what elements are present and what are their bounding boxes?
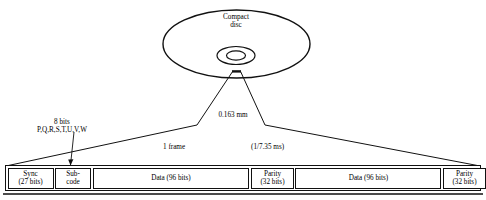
thickness-callout-label: 0.163 mm (203, 111, 263, 119)
frame-cell-parity1-line2: (32 bits) (260, 178, 284, 186)
subcode-channels-label: P,Q,R,S,T,U,V,W (18, 126, 106, 134)
compact-disc-label-line1: Compact (215, 13, 257, 21)
frame-cell-parity2-line2: (32 bits) (452, 178, 476, 186)
frame-cell-data1-line1: Data (96 bits) (151, 174, 191, 182)
frame-cell-subcode-line2: code (66, 178, 80, 186)
frame-cell-parity2: Parity(32 bits) (443, 168, 486, 189)
frame-cell-subcode: Sub-code (55, 168, 91, 189)
frame-duration-label: (1/7.35 ms) (251, 143, 284, 151)
leader-line-right (241, 72, 480, 167)
frame-cell-sync: Sync(27 bits) (8, 168, 54, 189)
frame-cell-parity2-line1: Parity (456, 170, 473, 178)
subcode-callout-label: 8 bits P,Q,R,S,T,U,V,W (18, 118, 106, 134)
frame-cell-parity1-line1: Parity (264, 170, 281, 178)
frame-cell-sync-line1: Sync (23, 170, 37, 178)
compact-disc-label-line2: disc (215, 21, 257, 29)
frame-cell-subcode-line1: Sub- (66, 170, 80, 178)
compact-disc-hub-outer-ellipse (217, 47, 255, 65)
frame-cell-data2: Data (96 bits) (295, 168, 441, 189)
subcode-bits-label: 8 bits (18, 118, 106, 126)
disc-sector-mark (232, 70, 241, 72)
compact-disc-hub-inner-ellipse (227, 51, 246, 60)
frame-span-label: 1 frame (163, 143, 185, 151)
cd-frame-structure-bar: Sync(27 bits)Sub-codeData (96 bits)Parit… (5, 165, 481, 191)
frame-cell-data2-line1: Data (96 bits) (349, 174, 389, 182)
frame-cell-data1: Data (96 bits) (93, 168, 250, 189)
diagram-canvas: Compact disc 0.163 mm 8 bits P,Q,R,S,T,U… (0, 0, 486, 200)
frame-cell-sync-line2: (27 bits) (18, 178, 42, 186)
frame-cell-parity1: Parity(32 bits) (251, 168, 294, 189)
compact-disc-label: Compact disc (215, 13, 257, 29)
